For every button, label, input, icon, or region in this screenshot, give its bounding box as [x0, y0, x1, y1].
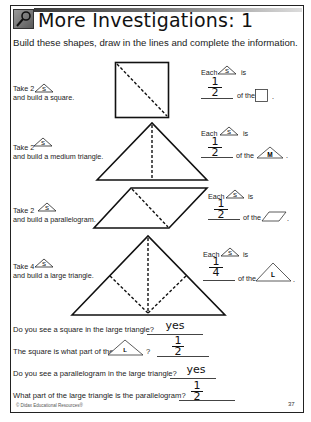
small-triangle-icon: S: [34, 258, 54, 268]
question-3-text: Do you see a parallelogram in the large …: [13, 369, 177, 378]
page-number: 37: [288, 401, 295, 407]
question-1-text: Do you see a square in the large triangl…: [13, 325, 154, 334]
medium-triangle-diagram: [96, 122, 210, 182]
task-1-of-the-label: of the: [237, 91, 255, 101]
instructions-text: Build these shapes, draw in the lines an…: [13, 37, 298, 48]
svg-text:.: .: [286, 152, 288, 159]
question-2-text-after: ?: [146, 347, 150, 356]
parallelogram-shape-icon: .: [262, 211, 292, 223]
svg-text:S: S: [42, 261, 46, 267]
square-diagram: [115, 62, 170, 119]
page-title: More Investigations: 1: [38, 9, 253, 31]
previous-page-edge: [0, 0, 80, 2]
task-3-build-label: and build a parallelogram.: [13, 215, 96, 225]
magnifier-icon: [13, 9, 34, 29]
large-triangle-icon: L: [107, 339, 145, 357]
parallelogram-diagram: [93, 187, 209, 230]
task-4-answer-denominator: 4: [205, 266, 227, 279]
svg-text:S: S: [233, 192, 237, 198]
svg-text:.: .: [287, 215, 289, 222]
svg-text:S: S: [225, 68, 229, 74]
svg-text:S: S: [41, 140, 45, 146]
answer-underline: [201, 98, 233, 99]
svg-text:L: L: [123, 347, 127, 353]
medium-triangle-icon: M .: [256, 146, 290, 160]
square-shape-icon: .: [255, 89, 275, 103]
question-1-answer: yes: [155, 319, 195, 332]
copyright-text: © Didax Educational Resources®: [16, 403, 83, 408]
question-3-answer: yes: [176, 363, 216, 376]
large-triangle-icon: L .: [255, 262, 297, 284]
answer-underline: [157, 356, 209, 357]
answer-underline: [208, 219, 240, 220]
task-2-of-the-label: of the: [236, 151, 254, 161]
task-4-is-label: is: [243, 250, 248, 260]
svg-text:M: M: [267, 151, 272, 158]
question-4-text: What part of the large triangle is the p…: [13, 391, 186, 400]
answer-underline: [179, 400, 235, 401]
task-1-is-label: is: [241, 68, 246, 78]
task-2-build-label: and build a medium triangle.: [13, 152, 103, 162]
small-triangle-icon: S: [217, 65, 237, 75]
svg-text:L: L: [271, 271, 275, 278]
small-triangle-icon: S: [37, 202, 57, 212]
question-2-text-before: The square is what part of the: [13, 347, 113, 356]
answer-underline: [203, 280, 235, 281]
question-4-answer-denominator: 2: [186, 390, 208, 403]
task-3-is-label: is: [248, 192, 253, 202]
svg-text:S: S: [42, 86, 46, 92]
task-1-build-label: and build a square.: [13, 93, 74, 103]
answer-underline: [201, 157, 233, 158]
small-triangle-icon: S: [34, 83, 54, 93]
svg-text:S: S: [228, 250, 232, 256]
svg-text:S: S: [45, 205, 49, 211]
svg-text:.: .: [272, 93, 274, 100]
small-triangle-icon: S: [33, 137, 53, 147]
task-3-of-the-label: of the: [243, 213, 261, 223]
task-2-is-label: is: [243, 129, 248, 139]
svg-text:.: .: [293, 276, 295, 283]
svg-text:S: S: [227, 129, 231, 135]
task-4-of-the-label: of the: [238, 274, 256, 284]
large-triangle-diagram: [71, 235, 227, 317]
